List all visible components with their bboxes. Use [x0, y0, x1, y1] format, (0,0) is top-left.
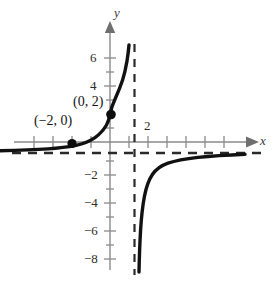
y-tick-label-6: 6 [90, 51, 97, 64]
y-tick-label-neg-2: −2 [84, 168, 98, 181]
axes-group [14, 21, 259, 270]
y-tick-label-neg-6: −6 [84, 224, 98, 237]
point-label-0-2: (0, 2) [73, 95, 103, 109]
point-marker-0-2 [106, 110, 116, 120]
point-marker-neg2-0 [67, 139, 76, 148]
curve-right-branch [139, 154, 245, 272]
curve-group [0, 45, 245, 272]
y-tick-label-neg-4: −4 [84, 196, 98, 209]
y-axis-label: y [114, 6, 120, 19]
y-axis-arrowhead [105, 21, 115, 33]
x-axis-label: x [260, 134, 266, 147]
y-tick-label-neg-8: −8 [84, 252, 98, 265]
y-tick-label-4: 4 [90, 79, 97, 92]
graph-canvas [0, 0, 279, 283]
point-label-neg2-0: (−2, 0) [34, 114, 72, 128]
x-axis-arrowhead [246, 137, 259, 148]
rational-function-graph-figure: x y 6 4 −2 −4 −6 −8 2 (0, 2) (−2, 0) [0, 0, 279, 283]
x-tick-label-2: 2 [144, 119, 151, 132]
